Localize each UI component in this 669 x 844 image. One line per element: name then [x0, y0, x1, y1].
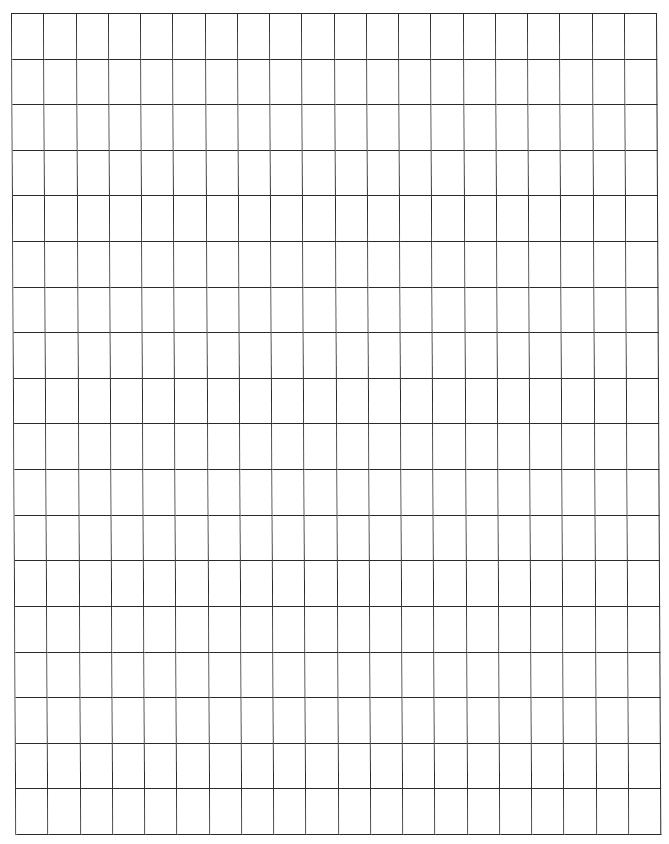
grid-cell — [402, 653, 434, 699]
grid-cell — [270, 14, 302, 60]
grid-cell — [80, 607, 112, 653]
grid-cell — [532, 789, 564, 835]
grid-cell — [208, 424, 240, 470]
grid-cell — [208, 470, 240, 516]
grid-cell — [306, 653, 338, 699]
grid-cell — [626, 288, 658, 334]
grid-cell — [109, 151, 141, 197]
grid-cell — [561, 242, 593, 288]
grid-cell — [78, 379, 110, 425]
grid-cell — [176, 516, 208, 562]
grid-cell — [238, 60, 270, 106]
grid-cell — [239, 196, 271, 242]
grid-cell — [206, 14, 238, 60]
grid-cell — [433, 379, 465, 425]
grid-cell — [464, 196, 496, 242]
grid-cell — [464, 60, 496, 106]
grid-cell — [207, 379, 239, 425]
grid-cell — [499, 607, 531, 653]
grid-cell — [305, 470, 337, 516]
grid-cell — [78, 242, 110, 288]
grid-cell — [13, 196, 45, 242]
grid-cell — [403, 789, 435, 835]
grid-cell — [206, 196, 238, 242]
grid-cell — [499, 561, 531, 607]
grid-cell — [46, 288, 78, 334]
grid-cell — [15, 561, 47, 607]
grid-cell — [47, 470, 79, 516]
grid-cell — [141, 60, 173, 106]
grid-cell — [47, 607, 79, 653]
grid-cell — [45, 196, 77, 242]
grid-cell — [112, 698, 144, 744]
grid-cell — [241, 698, 273, 744]
grid-cell — [401, 379, 433, 425]
grid-cell — [209, 653, 241, 699]
grid-cell — [175, 288, 207, 334]
grid-cell — [595, 561, 627, 607]
grid-cell — [304, 288, 336, 334]
grid-cell — [496, 14, 528, 60]
grid-cell — [595, 470, 627, 516]
grid-cell — [400, 196, 432, 242]
grid-cell — [367, 105, 399, 151]
grid-cell — [13, 151, 45, 197]
grid-cell — [271, 288, 303, 334]
grid-cell — [433, 424, 465, 470]
grid-cell — [499, 698, 531, 744]
grid-cell — [500, 744, 532, 790]
grid-cell — [561, 196, 593, 242]
grid-cell — [498, 379, 530, 425]
grid-cell — [467, 698, 499, 744]
grid-cell — [626, 196, 658, 242]
grid-cell — [367, 60, 399, 106]
grid-cell — [400, 288, 432, 334]
grid-cell — [468, 789, 500, 835]
grid-cell — [241, 653, 273, 699]
grid-cell — [431, 14, 463, 60]
graph-paper-page — [0, 0, 669, 844]
grid-cell — [596, 698, 628, 744]
grid-cell — [564, 698, 596, 744]
grid-cell — [44, 14, 76, 60]
grid-cell — [464, 151, 496, 197]
grid-cell — [597, 789, 629, 835]
grid-cell — [561, 105, 593, 151]
grid-cell — [16, 698, 48, 744]
grid-cell — [531, 561, 563, 607]
grid-cell — [563, 470, 595, 516]
grid-cell — [142, 196, 174, 242]
grid-cell — [109, 105, 141, 151]
grid-cell — [304, 424, 336, 470]
grid-cell — [306, 698, 338, 744]
grid-cell — [628, 698, 660, 744]
grid-cell — [335, 14, 367, 60]
grid-cell — [175, 379, 207, 425]
grid-cell — [371, 744, 403, 790]
grid-cell — [403, 744, 435, 790]
grid-cell — [144, 516, 176, 562]
grid-cell — [145, 698, 177, 744]
grid-cell — [242, 789, 274, 835]
grid-cell — [435, 698, 467, 744]
grid-cell — [16, 789, 48, 835]
grid-cell — [303, 242, 335, 288]
grid-cell — [465, 379, 497, 425]
grid-cell — [335, 196, 367, 242]
grid-cell — [302, 60, 334, 106]
grid-cell — [627, 516, 659, 562]
grid-cell — [48, 789, 80, 835]
grid-cell — [435, 653, 467, 699]
grid-cell — [111, 516, 143, 562]
grid-cell — [368, 288, 400, 334]
grid-cell — [77, 60, 109, 106]
grid-cell — [110, 333, 142, 379]
grid-cell — [112, 607, 144, 653]
grid-cell — [594, 379, 626, 425]
grid-cell — [239, 288, 271, 334]
grid-cell — [399, 60, 431, 106]
grid-cell — [241, 607, 273, 653]
grid-cell — [563, 561, 595, 607]
grid-cell — [46, 424, 78, 470]
grid-cell — [593, 60, 625, 106]
